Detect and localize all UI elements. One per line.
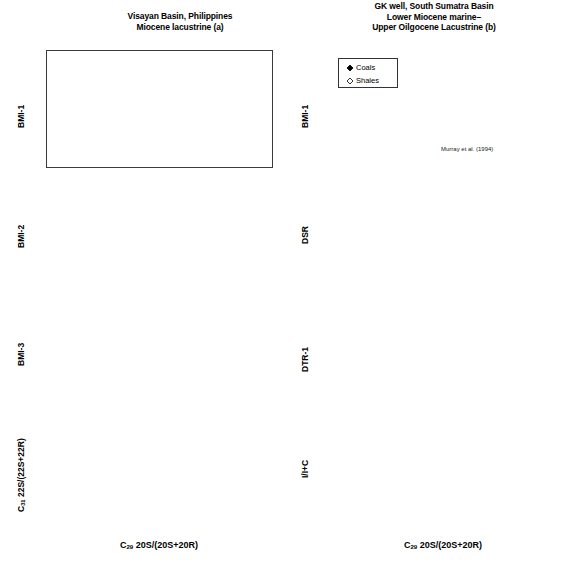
legend-box: Coals Shales — [338, 58, 398, 88]
plot-drawing-layer — [0, 0, 568, 563]
legend-coals-marker-icon — [347, 65, 353, 71]
ylabel-bmi-1-a: BMI-1 — [16, 105, 26, 128]
xlabel-right-column: C29 20S/(20S+20R) — [330, 540, 556, 550]
ylabel-bmi-2-a: BMI-2 — [16, 225, 26, 248]
ylabel-bmi-3-a: BMI-3 — [16, 343, 26, 366]
ylabel-i-ic-b: I/I+C — [300, 460, 310, 478]
legend-label-coals: Coals — [356, 63, 375, 72]
legend-label-shales: Shales — [356, 76, 379, 85]
xlabel-right-rest: 20S/(20S+20R) — [417, 540, 482, 550]
ylabel-c31-prefix: C — [16, 506, 26, 512]
ylabel-dtr-1-b: DTR-1 — [300, 347, 310, 372]
ylabel-dsr-b: DSR — [300, 226, 310, 244]
annotation-murray-1994: Murray et al. (1994) — [441, 146, 493, 152]
ylabel-c31-sub: 31 — [20, 499, 26, 505]
ylabel-bmi-1-b: BMI-1 — [300, 105, 310, 128]
figure-canvas: Visayan Basin, Philippines Miocene lacus… — [0, 0, 568, 563]
plot-frame-a1 — [47, 51, 273, 168]
legend-shales-marker-icon — [347, 78, 353, 84]
xlabel-left-column: C29 20S/(20S+20R) — [46, 540, 272, 550]
ylabel-c31-rest: 22S/(22S+22R) — [16, 438, 26, 499]
xlabel-left-rest: 20S/(20S+20R) — [133, 540, 198, 550]
ylabel-c31-a: C31 22S/(22S+22R) — [16, 438, 26, 512]
